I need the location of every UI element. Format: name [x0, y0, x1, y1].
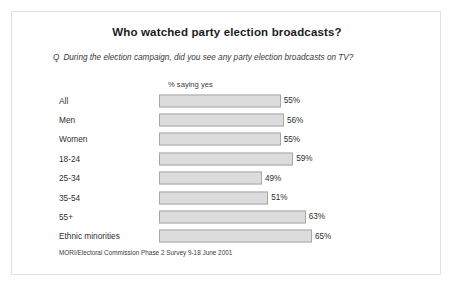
- bar-value-label: 56%: [287, 116, 303, 125]
- category-label: All: [59, 96, 68, 106]
- bar-value-label: 59%: [296, 154, 312, 163]
- bar-row: 55+63%: [12, 207, 442, 226]
- bar: [159, 210, 306, 223]
- bar: [159, 133, 281, 146]
- bar-row: Women55%: [12, 130, 442, 149]
- plot-area: All55%Men56%Women55%18-2459%25-3449%35-5…: [12, 91, 442, 246]
- category-label: 18-24: [59, 154, 80, 164]
- bar-value-label: 55%: [284, 135, 300, 144]
- survey-question: QDuring the election campaign, did you s…: [53, 53, 433, 62]
- question-prefix: Q: [53, 53, 59, 62]
- source-footnote: MORI/Electoral Commission Phase 2 Survey…: [59, 249, 232, 256]
- category-label: 35-54: [59, 193, 80, 203]
- bar: [159, 191, 268, 204]
- category-label: 55+: [59, 212, 73, 222]
- category-label: Men: [59, 115, 75, 125]
- bar-row: 25-3449%: [12, 169, 442, 188]
- bar: [159, 172, 262, 185]
- bar-row: Men56%: [12, 110, 442, 129]
- bar-value-label: 55%: [284, 96, 300, 105]
- slide-frame: Who watched party election broadcasts? Q…: [11, 11, 441, 275]
- x-axis-label: % saying yes: [168, 80, 213, 89]
- bar: [159, 114, 284, 127]
- bar: [159, 152, 293, 165]
- category-label: Ethnic minorities: [59, 231, 120, 241]
- category-label: 25-34: [59, 173, 80, 183]
- bar: [159, 94, 281, 107]
- bar-row: 35-5451%: [12, 188, 442, 207]
- bar-value-label: 51%: [271, 193, 287, 202]
- bar: [159, 230, 312, 243]
- bar-value-label: 65%: [315, 232, 331, 241]
- bar-row: Ethnic minorities65%: [12, 227, 442, 246]
- chart-title: Who watched party election broadcasts?: [12, 26, 442, 38]
- bar-row: All55%: [12, 91, 442, 110]
- bar-row: 18-2459%: [12, 149, 442, 168]
- question-text: During the election campaign, did you se…: [63, 53, 353, 62]
- category-label: Women: [59, 134, 87, 144]
- bar-value-label: 49%: [265, 174, 281, 183]
- bar-value-label: 63%: [309, 212, 325, 221]
